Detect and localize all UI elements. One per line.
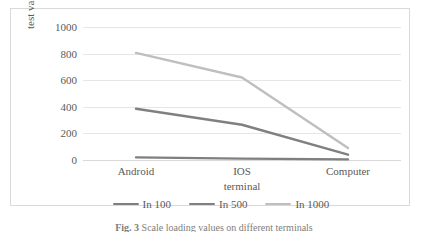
series-line bbox=[136, 109, 348, 155]
legend-item[interactable]: In 100 bbox=[113, 198, 171, 210]
y-tick-label: 200 bbox=[61, 128, 78, 139]
y-tick-label: 1000 bbox=[55, 22, 77, 33]
series-line bbox=[136, 53, 348, 148]
chart-frame: test value 02004006008001000 AndroidIOSC… bbox=[10, 8, 410, 206]
legend-item[interactable]: In 1000 bbox=[265, 198, 329, 210]
y-tick-label: 0 bbox=[72, 155, 78, 166]
x-tick-label: Computer bbox=[326, 163, 370, 179]
gridline bbox=[83, 160, 401, 161]
plot-area: 02004006008001000 bbox=[83, 27, 401, 160]
y-axis-title: test value bbox=[23, 0, 37, 63]
series-line bbox=[136, 157, 348, 159]
figure-caption: Fig. 3 Scale loading values on different… bbox=[0, 222, 428, 232]
x-tick-label: IOS bbox=[233, 163, 251, 179]
legend-swatch-icon bbox=[189, 203, 215, 206]
x-axis-tick-labels: AndroidIOSComputer bbox=[83, 163, 401, 179]
legend-label: In 1000 bbox=[295, 198, 329, 210]
legend-swatch-icon bbox=[113, 203, 139, 206]
x-tick-label: Android bbox=[118, 163, 155, 179]
y-tick-label: 400 bbox=[61, 101, 78, 112]
legend-label: In 100 bbox=[143, 198, 171, 210]
series-lines bbox=[83, 27, 401, 160]
caption-text: Scale loading values on different termin… bbox=[142, 222, 313, 232]
legend-item[interactable]: In 500 bbox=[189, 198, 247, 210]
legend: In 100In 500In 1000 bbox=[21, 198, 421, 210]
caption-label: Fig. 3 bbox=[115, 222, 139, 232]
y-tick-label: 800 bbox=[61, 48, 78, 59]
x-axis-title: terminal bbox=[83, 179, 401, 193]
legend-label: In 500 bbox=[219, 198, 247, 210]
legend-swatch-icon bbox=[265, 203, 291, 206]
figure: test value 02004006008001000 AndroidIOSC… bbox=[0, 0, 428, 232]
y-tick-label: 600 bbox=[61, 75, 78, 86]
